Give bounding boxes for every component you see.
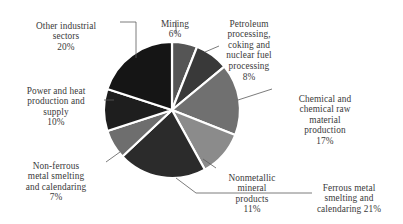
pie-label-power-heat: Power and heat production and supply 10% <box>8 75 104 139</box>
pie-label-nonmetallic-text: Nonmetallic mineral products <box>228 173 275 204</box>
pie-label-other-industrial-pct: 20% <box>14 42 118 53</box>
pie-label-mining-pct: 6% <box>144 29 206 40</box>
pie-label-mining: Mining 6% <box>144 8 206 50</box>
pie-label-chemical-text: Chemical and chemical raw material produ… <box>299 94 352 136</box>
pie-label-nonferrous-pct: 7% <box>6 192 106 203</box>
pie-label-other-industrial: Other industrial sectors 20% <box>14 10 118 63</box>
pie-label-nonferrous-text: Non-ferrous metal smelting and calendari… <box>26 161 87 192</box>
pie-label-ferrous: Ferrous metal smelting and calendaring 2… <box>300 172 398 214</box>
pie-label-petroleum: Petroleum processing, coking and nuclear… <box>213 8 285 93</box>
pie-label-mining-text: Mining <box>161 19 189 29</box>
pie-label-petroleum-text: Petroleum processing, coking and nuclear… <box>226 19 271 71</box>
pie-label-chemical-pct: 17% <box>281 136 369 147</box>
pie-label-nonferrous: Non-ferrous metal smelting and calendari… <box>6 150 106 214</box>
pie-label-nonmetallic: Nonmetallic mineral products 11% <box>219 162 285 224</box>
pie-label-other-industrial-text: Other industrial sectors <box>36 21 96 42</box>
pie-label-power-heat-pct: 10% <box>8 117 104 128</box>
leader-line-nonferrous <box>106 152 120 162</box>
pie-label-ferrous-text: Ferrous metal smelting and calendaring 2… <box>317 183 381 214</box>
pie-chart-figure: Other industrial sectors 20% Mining 6% P… <box>0 0 403 224</box>
pie-label-nonmetallic-pct: 11% <box>219 204 285 215</box>
pie-label-power-heat-text: Power and heat production and supply <box>27 86 86 117</box>
pie-label-chemical: Chemical and chemical raw material produ… <box>281 83 369 157</box>
pie-label-petroleum-pct: 8% <box>213 72 285 83</box>
